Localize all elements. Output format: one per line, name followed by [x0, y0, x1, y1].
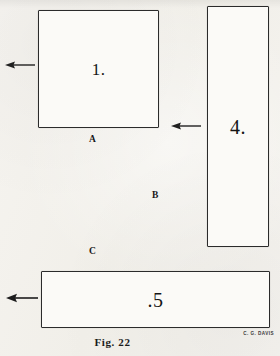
point-label-c: C	[89, 247, 96, 257]
artist-signature: C. G. DAVIS	[243, 331, 274, 336]
rectangle-4-label: 4.	[207, 6, 269, 247]
point-label-b: B	[152, 191, 159, 201]
arrow-left-icon	[170, 120, 202, 132]
figure-diagram-page: 1. 4. .5 A B C Fig. 22 C. G. DAVIS	[0, 0, 280, 356]
rectangle-1-label: 1.	[38, 10, 159, 128]
point-label-a: A	[89, 135, 96, 145]
arrow-left-icon	[4, 59, 36, 71]
arrow-left-icon	[5, 292, 39, 304]
rectangle-5-label: .5	[41, 271, 270, 328]
figure-caption: Fig. 22	[0, 336, 225, 348]
